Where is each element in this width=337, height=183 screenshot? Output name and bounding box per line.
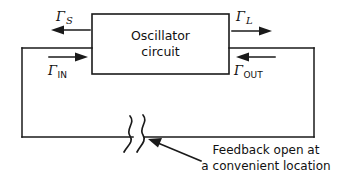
gamma-s-subscript: S xyxy=(66,15,73,26)
gamma-out-symbol: Γ xyxy=(234,63,243,78)
feedback-annotation: Feedback open at a convenient location xyxy=(196,143,336,174)
squiggle-break-stroke-2 xyxy=(137,115,145,152)
gamma-out-arrow-head xyxy=(236,53,249,62)
gamma-out-label: ΓOUT xyxy=(234,63,262,78)
oscillator-feedback-diagram: Oscillator circuit ΓS ΓIN ΓL ΓOUT Feedba… xyxy=(0,0,337,183)
gamma-s-label: ΓS xyxy=(56,9,72,24)
feedback-annotation-line1: Feedback open at xyxy=(196,143,336,159)
gamma-in-arrow-head xyxy=(75,53,88,62)
oscillator-block-label-line2: circuit xyxy=(141,44,179,60)
annotation-pointer-head xyxy=(148,138,162,148)
squiggle-break-stroke-1 xyxy=(124,116,132,152)
feedback-annotation-line2: a convenient location xyxy=(196,159,336,175)
gamma-s-arrow-head xyxy=(51,26,64,35)
gamma-in-subscript: IN xyxy=(58,70,67,80)
gamma-out-subscript: OUT xyxy=(244,70,263,80)
gamma-in-label: ΓIN xyxy=(48,63,66,78)
gamma-in-symbol: Γ xyxy=(48,63,57,78)
oscillator-block-label: Oscillator circuit xyxy=(92,14,229,74)
gamma-s-symbol: Γ xyxy=(56,9,65,24)
gamma-l-symbol: Γ xyxy=(236,9,245,24)
annotation-pointer-shaft xyxy=(158,143,201,161)
gamma-l-label: ΓL xyxy=(236,9,252,24)
gamma-l-subscript: L xyxy=(246,15,253,26)
oscillator-block-label-line1: Oscillator xyxy=(131,28,190,44)
gamma-l-arrow-head xyxy=(259,27,272,36)
